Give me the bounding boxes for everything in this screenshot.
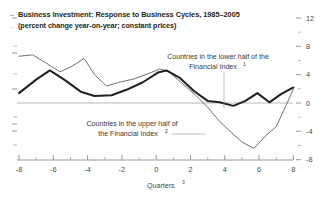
x-tick-label: 6 xyxy=(257,165,261,174)
x-tick-label: -8 xyxy=(16,165,23,174)
chart-title: Business Investment: Response to Busines… xyxy=(18,10,240,19)
series-line-lower-half xyxy=(19,70,293,105)
upper-half-annotation: Countries in the upper half of the Finan… xyxy=(86,120,205,138)
y-tick-label: -4 xyxy=(306,127,313,136)
upper-annotation-superscript: 2 xyxy=(165,128,168,134)
left-axis-ticks xyxy=(12,18,17,145)
y-tick-label: 4 xyxy=(306,70,310,79)
upper-annotation-line1: Countries in the upper half of xyxy=(86,120,177,128)
x-tick-label: -6 xyxy=(50,165,57,174)
x-axis-title-superscript: 3 xyxy=(182,179,185,185)
x-axis-major-ticks xyxy=(19,155,293,160)
y-tick-label: 8 xyxy=(306,42,310,51)
x-tick-label: -2 xyxy=(119,165,126,174)
y-tick-label: -8 xyxy=(306,155,313,164)
upper-annotation-line2-text: the Financial Index xyxy=(98,130,158,138)
x-tick-label: 4 xyxy=(223,165,227,174)
lower-annotation-line1: Countries in the lower half of the xyxy=(167,53,269,61)
business-investment-chart: Business Investment: Response to Busines… xyxy=(0,0,327,198)
y-axis-minor-ticks xyxy=(298,32,301,145)
y-tick-label: 12 xyxy=(306,14,314,23)
x-tick-label: 0 xyxy=(154,165,158,174)
y-axis-tick-labels: 12 8 4 0 -4 -8 xyxy=(306,14,314,165)
title-dash-2: . xyxy=(11,21,13,30)
x-tick-label: 8 xyxy=(291,165,295,174)
chart-subtitle: (percent change year-on-year; constant p… xyxy=(18,21,177,30)
lower-annotation-superscript: 1 xyxy=(243,61,246,67)
x-tick-label: -4 xyxy=(84,165,91,174)
y-tick-label: 0 xyxy=(306,99,310,108)
x-axis-title: Quarters xyxy=(147,182,175,190)
x-axis-tick-labels: -8 -6 -4 -2 0 2 4 6 8 xyxy=(16,165,296,174)
lower-annotation-line2: Financial Index xyxy=(189,63,237,71)
x-tick-label: 2 xyxy=(188,165,192,174)
